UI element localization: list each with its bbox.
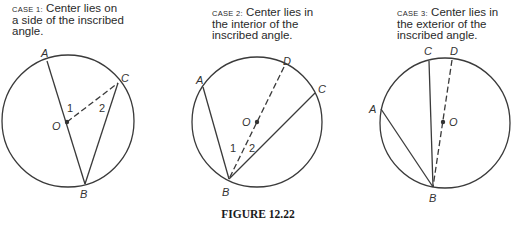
case-3-point-d: D [450, 45, 458, 57]
case-2-chord-bc [229, 93, 315, 179]
case-2-point-b: B [222, 186, 229, 198]
case-3-diagram [380, 58, 510, 188]
case-2-point-a: A [195, 74, 203, 86]
case-2-angle-2: 2 [249, 142, 255, 154]
case-2-point-c: C [318, 83, 326, 95]
case-1-point-o: O [52, 120, 61, 132]
case-1-radius-oc [67, 83, 118, 122]
figure-title: FIGURE 12.22 [0, 208, 516, 220]
case-2-center-dot [255, 120, 259, 124]
case-2-chord-ab [203, 87, 229, 179]
case-1-angle-1: 1 [67, 102, 73, 114]
case-1-point-b: B [80, 188, 87, 200]
case-2-angle-1: 1 [230, 142, 236, 154]
case-3-point-c: C [424, 45, 432, 57]
case-3-center-dot [441, 120, 445, 124]
case-1-point-a: A [40, 47, 48, 59]
case-3-point-b: B [429, 192, 436, 204]
case-2-point-d: D [283, 55, 291, 67]
case-3-chord-bc [429, 61, 433, 187]
case-3-point-o: O [449, 116, 458, 128]
figure-diagrams: A C O B 1 2 A D C O B 1 2 A C D O B [0, 0, 516, 242]
case-3-circle [380, 58, 510, 188]
case-2-point-o: O [242, 116, 251, 128]
case-1-angle-2: 2 [99, 102, 105, 114]
case-1-point-c: C [121, 72, 129, 84]
case-3-point-a: A [368, 103, 376, 115]
case-1-center-dot [65, 120, 69, 124]
